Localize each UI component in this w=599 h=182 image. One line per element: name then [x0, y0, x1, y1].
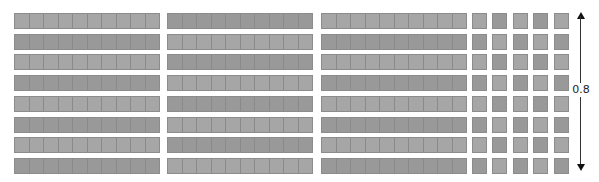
strip-cell: [59, 35, 74, 49]
strip-cell: [212, 14, 227, 28]
strip-cell: [146, 97, 160, 111]
strip-cell: [183, 35, 198, 49]
strip-cell: [453, 138, 467, 152]
strip-cell: [131, 118, 146, 132]
strip-cell: [44, 118, 59, 132]
strip-cell: [255, 14, 270, 28]
strip-cell: [299, 97, 313, 111]
strip-cell: [453, 97, 467, 111]
strip-cell: [102, 159, 117, 173]
ten-strip: [167, 158, 313, 174]
strip-cell: [284, 55, 299, 69]
strip-cell: [183, 138, 198, 152]
strip-cell: [15, 76, 30, 90]
strip-cell: [409, 97, 424, 111]
strip-cell: [337, 55, 352, 69]
strip-cell: [102, 14, 117, 28]
strip-cell: [299, 138, 313, 152]
strip-cell: [366, 138, 381, 152]
ten-strip: [14, 96, 160, 112]
strip-cell: [146, 118, 160, 132]
strip-cell: [322, 55, 337, 69]
strip-cell: [146, 138, 160, 152]
strip-cell: [102, 76, 117, 90]
strip-cell: [117, 76, 132, 90]
strip-cell: [226, 159, 241, 173]
unit-square: [533, 34, 548, 50]
unit-square: [513, 158, 528, 174]
unit-square: [554, 13, 569, 29]
strip-cell: [59, 14, 74, 28]
strip-cell: [117, 97, 132, 111]
unit-square: [554, 75, 569, 91]
strip-cell: [197, 55, 212, 69]
strip-cell: [424, 55, 439, 69]
strip-cell: [270, 159, 285, 173]
strip-cell: [284, 159, 299, 173]
strip-cell: [102, 55, 117, 69]
strip-cell: [424, 35, 439, 49]
strip-cell: [395, 138, 410, 152]
strip-cell: [380, 159, 395, 173]
strip-cell: [197, 138, 212, 152]
strip-cell: [395, 55, 410, 69]
strip-cell: [226, 138, 241, 152]
strip-cell: [197, 76, 212, 90]
strip-cell: [183, 76, 198, 90]
unit-square: [533, 117, 548, 133]
strip-cell: [168, 35, 183, 49]
strip-cell: [424, 118, 439, 132]
strip-cell: [30, 118, 45, 132]
strip-cell: [168, 97, 183, 111]
strip-cell: [395, 35, 410, 49]
strip-cell: [409, 118, 424, 132]
strip-cell: [30, 35, 45, 49]
strip-cell: [88, 97, 103, 111]
strip-cell: [438, 97, 453, 111]
arrow-up-icon: [577, 12, 585, 19]
strip-cell: [380, 76, 395, 90]
strip-cell: [409, 55, 424, 69]
strip-cell: [322, 97, 337, 111]
strip-cell: [409, 14, 424, 28]
strip-cell: [226, 55, 241, 69]
unit-square: [533, 13, 548, 29]
strip-cell: [30, 138, 45, 152]
unit-square: [513, 96, 528, 112]
strip-cell: [44, 138, 59, 152]
strip-cell: [255, 76, 270, 90]
strip-cell: [299, 55, 313, 69]
strip-cell: [197, 159, 212, 173]
strip-cell: [322, 14, 337, 28]
strip-cell: [146, 159, 160, 173]
strip-cell: [424, 14, 439, 28]
strip-cell: [380, 14, 395, 28]
strip-cell: [299, 76, 313, 90]
unit-square: [472, 75, 487, 91]
ten-strip: [167, 137, 313, 153]
strip-cell: [453, 76, 467, 90]
strip-cell: [351, 159, 366, 173]
unit-square: [472, 137, 487, 153]
strip-cell: [424, 159, 439, 173]
strip-cell: [226, 14, 241, 28]
strip-cell: [30, 97, 45, 111]
strip-cell: [409, 76, 424, 90]
strip-cell: [73, 76, 88, 90]
strip-cell: [351, 138, 366, 152]
strip-cell: [73, 14, 88, 28]
strip-cell: [88, 55, 103, 69]
strip-cell: [380, 55, 395, 69]
strip-cell: [366, 35, 381, 49]
strip-cell: [15, 55, 30, 69]
strip-cell: [438, 118, 453, 132]
strip-cell: [44, 76, 59, 90]
strip-cell: [409, 138, 424, 152]
strip-cell: [241, 138, 256, 152]
strip-cell: [197, 14, 212, 28]
strip-cell: [197, 97, 212, 111]
strip-cell: [241, 76, 256, 90]
ten-strip: [321, 34, 467, 50]
ten-strip: [14, 34, 160, 50]
unit-square: [472, 158, 487, 174]
